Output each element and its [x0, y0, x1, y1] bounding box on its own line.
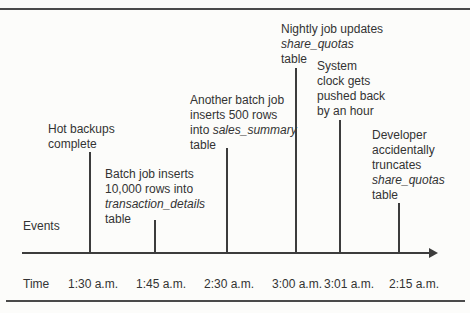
event-label-line: by an hour — [317, 104, 385, 119]
event-tick-system-clock-pushed-back — [339, 120, 341, 254]
time-label-nightly-job-updates: 3:00 a.m. — [272, 277, 322, 291]
event-tick-nightly-job-updates — [295, 68, 297, 254]
event-label-system-clock-pushed-back: Systemclock getspushed backby an hour — [317, 59, 385, 119]
event-text: truncates — [372, 158, 421, 172]
event-text: table — [372, 188, 398, 202]
event-text: Hot backups — [48, 122, 115, 136]
arrow-right-icon — [429, 248, 438, 258]
time-label-system-clock-pushed-back: 3:01 a.m. — [324, 277, 374, 291]
table-name-text: sales_summary — [213, 123, 297, 137]
event-tick-hot-backups-complete — [89, 152, 91, 254]
event-text: table — [281, 52, 307, 66]
table-name-text: share_quotas — [281, 37, 354, 51]
event-label-line: truncates — [372, 158, 445, 173]
event-label-line: inserts 500 rows — [190, 108, 297, 123]
event-tick-developer-truncates — [398, 203, 400, 254]
event-label-line: table — [190, 138, 297, 153]
event-label-line: into sales_summary — [190, 123, 297, 138]
event-text: into — [190, 123, 213, 137]
event-label-line: table — [105, 212, 205, 227]
event-text: Nightly job updates — [281, 22, 383, 36]
event-label-line: 10,000 rows into — [105, 182, 205, 197]
event-label-line: share_quotas — [281, 37, 383, 52]
time-label-batch-job-inserts: 1:45 a.m. — [136, 277, 186, 291]
event-label-line: pushed back — [317, 89, 385, 104]
event-text: Another batch job — [190, 93, 284, 107]
event-label-line: share_quotas — [372, 173, 445, 188]
event-label-line: accidentally — [372, 143, 445, 158]
event-label-hot-backups-complete: Hot backupscomplete — [48, 122, 115, 152]
bottom-border-rule — [6, 300, 465, 302]
event-text: Batch job inserts — [105, 167, 194, 181]
time-label-another-batch-job: 2:30 a.m. — [204, 277, 254, 291]
time-label-hot-backups-complete: 1:30 a.m. — [68, 277, 118, 291]
event-text: clock gets — [317, 74, 370, 88]
event-label-line: Another batch job — [190, 93, 297, 108]
table-name-text: share_quotas — [372, 173, 445, 187]
event-text: table — [190, 138, 216, 152]
table-name-text: transaction_details — [105, 197, 205, 211]
event-label-line: System — [317, 59, 385, 74]
top-border-rule — [0, 8, 470, 10]
event-label-line: Nightly job updates — [281, 22, 383, 37]
event-text: accidentally — [372, 143, 435, 157]
event-tick-another-batch-job — [226, 148, 228, 254]
events-axis-label: Events — [23, 219, 60, 233]
event-text: by an hour — [317, 104, 374, 118]
event-text: table — [105, 212, 131, 226]
event-label-batch-job-inserts: Batch job inserts10,000 rows intotransac… — [105, 167, 205, 227]
event-text: inserts 500 rows — [190, 108, 277, 122]
time-axis-label: Time — [23, 277, 49, 291]
event-label-line: transaction_details — [105, 197, 205, 212]
event-text: complete — [48, 137, 97, 151]
timeline-diagram: Events Time Hot backupscompleteBatch job… — [0, 0, 470, 313]
event-text: System — [317, 59, 357, 73]
event-label-another-batch-job: Another batch jobinserts 500 rowsinto sa… — [190, 93, 297, 153]
event-label-line: clock gets — [317, 74, 385, 89]
event-label-line: table — [372, 188, 445, 203]
time-label-developer-truncates: 2:15 a.m. — [389, 277, 439, 291]
event-label-line: Batch job inserts — [105, 167, 205, 182]
event-label-line: complete — [48, 137, 115, 152]
event-label-line: Hot backups — [48, 122, 115, 137]
event-text: Developer — [372, 128, 427, 142]
event-text: pushed back — [317, 89, 385, 103]
event-text: 10,000 rows into — [105, 182, 193, 196]
event-label-developer-truncates: Developeraccidentallytruncatesshare_quot… — [372, 128, 445, 203]
event-label-line: Developer — [372, 128, 445, 143]
